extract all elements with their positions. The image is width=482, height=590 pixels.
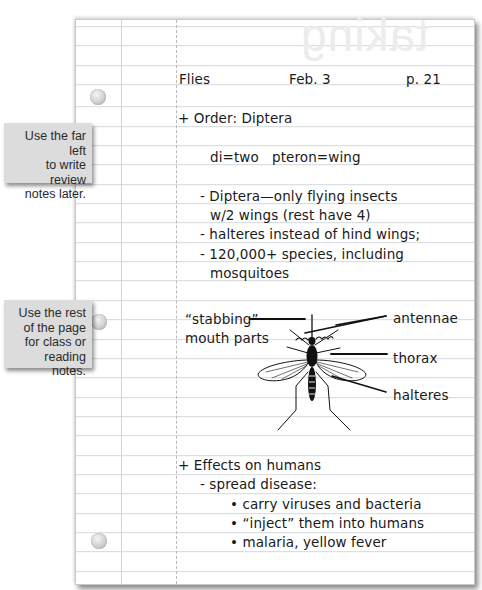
callout-notes-line-1: Use the rest — [8, 306, 86, 321]
callout-review-line-2: to write review — [8, 158, 86, 187]
note-effects-bullet-2: • “inject” them into humans — [230, 515, 424, 531]
callout-notes-line-3: for class or — [8, 335, 86, 350]
callout-review-line-1: Use the far left — [8, 129, 86, 158]
callout-notes-line-2: of the page — [8, 321, 86, 336]
note-effects-sub: - spread disease: — [200, 476, 317, 492]
note-effects-heading: + Effects on humans — [178, 457, 321, 473]
note-effects-bullet-1: • carry viruses and bacteria — [230, 496, 422, 512]
callout-notes-line-4: reading notes. — [8, 350, 86, 379]
callout-notes-area: Use the rest of the page for class or re… — [4, 300, 92, 368]
callout-review-column: Use the far left to write review notes l… — [4, 123, 92, 183]
note-effects-bullet-3: • malaria, yellow fever — [230, 534, 386, 550]
callout-review-line-3: notes later. — [8, 187, 86, 202]
